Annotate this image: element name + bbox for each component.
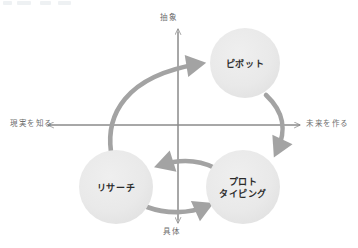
- node-label-research: リサーチ: [97, 182, 135, 194]
- arrow-pivot-to-prototyping: [266, 95, 283, 151]
- axis-label-know-reality: 現実を知る: [10, 120, 53, 128]
- arrow-research-to-prototyping: [147, 206, 207, 212]
- arrow-prototyping-to-research: [161, 161, 215, 168]
- axis-label-abstract: 抽象: [160, 14, 177, 22]
- axis-label-concrete: 具体: [163, 228, 180, 236]
- arrow-research-to-pivot: [110, 64, 199, 152]
- axis-label-create-future: 未来を作る: [306, 120, 349, 128]
- node-label-prototyping: プロト タイピング: [219, 176, 267, 200]
- node-label-pivot: ピボット: [226, 58, 264, 70]
- diagram-graphics: [0, 0, 358, 248]
- diagram-canvas: 抽象 具体 現実を知る 未来を作る ピボット リサーチ プロト タイピング: [0, 0, 358, 248]
